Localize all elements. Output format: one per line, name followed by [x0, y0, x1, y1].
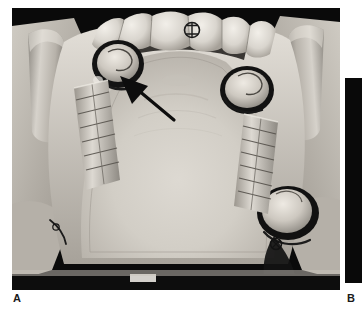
- panel-b-image: [345, 78, 362, 283]
- panel-a-label: A: [13, 293, 21, 304]
- incisive-papilla-region: [162, 74, 194, 86]
- panel-a-photograph: [12, 8, 340, 290]
- panel-b-photograph: [345, 78, 362, 283]
- tooth-lateral-incisor-right: [222, 17, 250, 54]
- tooth-central-incisor-right: [188, 13, 222, 52]
- figure-plate: A B: [0, 0, 362, 312]
- photo-bottom-band: [12, 274, 340, 290]
- right-crown-surface: [225, 70, 269, 108]
- panel-a-image: [12, 8, 340, 290]
- panel-b-field: [345, 78, 362, 283]
- bottom-tissue-edge: [12, 270, 340, 276]
- panel-b-label: B: [347, 293, 355, 304]
- right-posterior-crown-with-clasp: [220, 66, 274, 114]
